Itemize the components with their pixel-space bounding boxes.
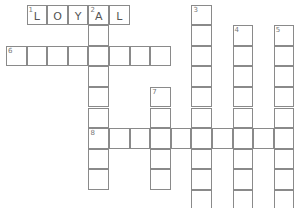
crossword-cell[interactable]: 2A [88,5,109,26]
crossword-cell[interactable] [191,87,212,108]
crossword-cell[interactable] [150,108,171,129]
crossword-cell[interactable] [233,169,254,190]
cell-letter: A [89,10,108,23]
crossword-grid: 1LOY2AL834567 [0,0,301,208]
crossword-cell[interactable]: 3 [191,5,212,26]
crossword-cell[interactable] [171,128,192,149]
clue-number: 4 [235,26,239,34]
crossword-cell[interactable] [274,46,295,67]
clue-number: 5 [276,26,280,34]
crossword-cell[interactable] [150,128,171,149]
crossword-cell[interactable] [191,66,212,87]
cell-letter: Y [69,10,88,23]
crossword-cell[interactable] [274,190,295,208]
crossword-cell[interactable] [253,128,274,149]
crossword-cell[interactable] [191,190,212,208]
crossword-cell[interactable]: Y [68,5,89,26]
crossword-cell[interactable] [233,66,254,87]
clue-number: 3 [193,6,197,14]
crossword-cell[interactable] [88,46,109,67]
crossword-cell[interactable] [109,46,130,67]
crossword-cell[interactable] [88,25,109,46]
crossword-cell[interactable] [233,149,254,170]
crossword-cell[interactable] [274,128,295,149]
crossword-cell[interactable] [274,169,295,190]
crossword-cell[interactable] [150,169,171,190]
crossword-cell[interactable]: 4 [233,25,254,46]
crossword-cell[interactable] [274,87,295,108]
crossword-cell[interactable] [212,128,233,149]
cell-letter: L [28,10,47,23]
crossword-cell[interactable] [274,66,295,87]
crossword-cell[interactable] [233,87,254,108]
crossword-cell[interactable]: L [109,5,130,26]
crossword-cell[interactable] [130,128,151,149]
crossword-cell[interactable] [233,190,254,208]
cell-letter: L [110,10,129,23]
crossword-cell[interactable] [191,128,212,149]
crossword-cell[interactable] [130,46,151,67]
crossword-cell[interactable] [27,46,48,67]
crossword-cell[interactable]: 6 [6,46,27,67]
crossword-cell[interactable]: O [47,5,68,26]
crossword-cell[interactable] [150,149,171,170]
crossword-cell[interactable] [88,149,109,170]
crossword-cell[interactable] [191,46,212,67]
crossword-cell[interactable] [233,46,254,67]
crossword-cell[interactable] [191,149,212,170]
crossword-cell[interactable] [88,169,109,190]
crossword-cell[interactable] [274,149,295,170]
crossword-cell[interactable] [88,87,109,108]
crossword-cell[interactable] [233,128,254,149]
crossword-cell[interactable] [109,128,130,149]
crossword-cell[interactable]: 7 [150,87,171,108]
crossword-cell[interactable]: 8 [88,128,109,149]
clue-number: 8 [90,129,94,137]
cell-letter: O [48,10,67,23]
crossword-cell[interactable] [150,46,171,67]
crossword-cell[interactable]: 1L [27,5,48,26]
crossword-cell[interactable] [274,108,295,129]
crossword-cell[interactable] [191,169,212,190]
crossword-cell[interactable] [68,46,89,67]
crossword-cell[interactable] [233,108,254,129]
crossword-cell[interactable] [191,108,212,129]
clue-number: 6 [8,47,12,55]
crossword-cell[interactable] [88,66,109,87]
crossword-cell[interactable]: 5 [274,25,295,46]
crossword-cell[interactable] [191,25,212,46]
clue-number: 7 [152,88,156,96]
crossword-cell[interactable] [88,108,109,129]
crossword-cell[interactable] [47,46,68,67]
